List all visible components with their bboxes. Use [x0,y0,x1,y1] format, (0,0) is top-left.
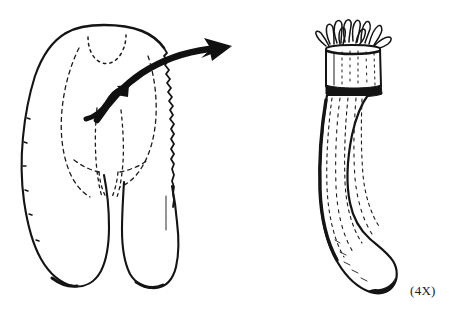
figure-illustration [0,0,449,317]
figure-page: (4X) [0,0,449,317]
scale-label: (4X) [410,283,436,299]
